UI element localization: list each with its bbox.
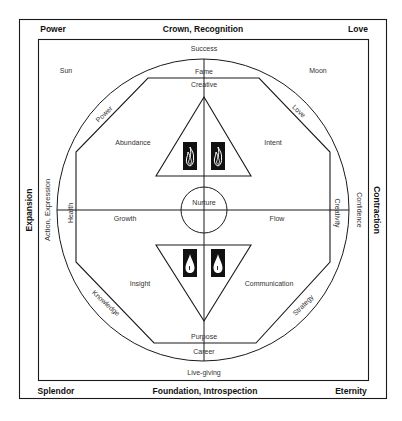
label-communication: Communication (245, 280, 294, 287)
label-career: Career (193, 348, 214, 355)
corner-label-bottom-left: Splendor (38, 386, 75, 396)
side-label-right: Contraction (372, 186, 382, 234)
label-creative: Creative (191, 81, 217, 88)
label-intent: Intent (264, 139, 282, 146)
side-label-top: Crown, Recognition (163, 24, 243, 34)
label-fame: Fame (194, 68, 214, 75)
label-nurture: Nurture (192, 199, 215, 206)
corner-label-top-left: Power (40, 24, 66, 34)
label-confidence: Confidence (356, 192, 363, 227)
side-label-bottom: Foundation, Introspection (153, 386, 258, 396)
fire-icon (211, 142, 225, 170)
label-sun: Sun (60, 67, 72, 74)
label-live-giving: Live-giving (187, 369, 220, 376)
label-abundance: Abundance (115, 139, 150, 146)
water-drop-icon (211, 249, 225, 277)
fire-icon (183, 142, 197, 170)
label-creativity: Creativity (334, 198, 341, 227)
label-moon: Moon (309, 67, 327, 74)
label-success: Success (191, 45, 217, 52)
corner-label-bottom-right: Eternity (335, 386, 367, 396)
label-insight: Insight (130, 280, 151, 287)
diagram-lines (0, 0, 402, 421)
side-label-left: Expansion (24, 189, 34, 232)
label-action-expression: Action, Expression (43, 179, 52, 241)
label-growth: Growth (114, 215, 137, 222)
feng-shui-diagram: Power Love Splendor Eternity Crown, Reco… (0, 0, 402, 421)
label-flow: Flow (270, 215, 285, 222)
label-health: Health (67, 203, 74, 223)
water-drop-icon (183, 249, 197, 277)
corner-label-top-right: Love (348, 24, 368, 34)
label-purpose: Purpose (191, 333, 217, 340)
